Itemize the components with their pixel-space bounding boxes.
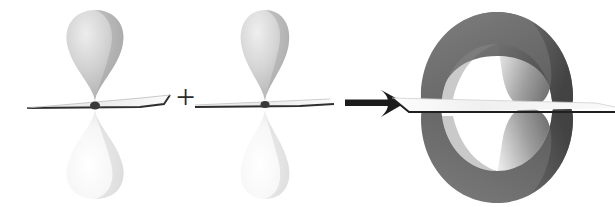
plus-operator: + [176,80,195,114]
nucleus-point [90,102,100,110]
nucleus-point [261,101,270,108]
p-orbital-right [195,10,334,199]
reaction-arrow [345,90,405,117]
pi-molecular-orbital [392,12,615,203]
arrow-shaft [345,100,389,107]
orbital-diagram [0,0,615,207]
p-orbital-left [27,10,170,199]
orbital-diagram-canvas: + [0,0,615,207]
nodal-plane [392,98,615,112]
